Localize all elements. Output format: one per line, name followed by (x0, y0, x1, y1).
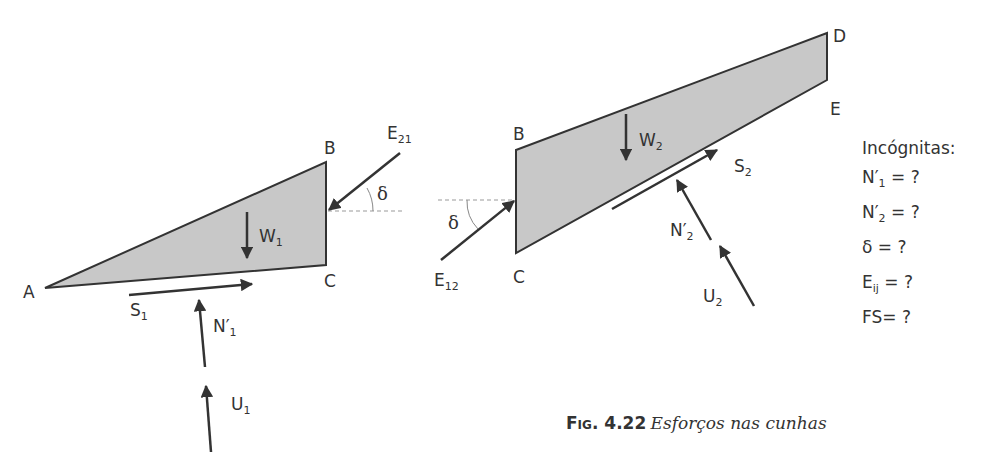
unknown-item: N′1 = ? (862, 163, 956, 198)
unknowns-title: Incógnitas: (862, 134, 956, 163)
vertex-label-c1: C (324, 271, 336, 291)
uplift-label-1: U1 (231, 394, 250, 417)
angle-arc-1 (367, 188, 373, 211)
vertex-label-d: D (833, 26, 846, 46)
vertex-label-a: A (23, 282, 35, 302)
vertex-label-b2: B (513, 124, 525, 144)
angle-arc-2 (467, 200, 478, 229)
normal-label-2: N′2 (670, 220, 694, 243)
shear-label-1: S1 (130, 300, 148, 323)
interface-force-arrow-21 (329, 153, 400, 210)
unknown-item: Eij = ? (862, 268, 956, 303)
unknown-item: FS= ? (862, 303, 956, 338)
vertex-label-e: E (830, 99, 841, 119)
wedge-1 (45, 162, 326, 288)
unknown-item: N′2 = ? (862, 198, 956, 233)
caption-text: Esforços nas cunhas (651, 413, 827, 433)
normal-label-1: N′1 (213, 316, 237, 339)
interface-label-21: E21 (387, 123, 412, 146)
uplift-arrow-2 (720, 246, 754, 306)
shear-arrow-1 (129, 284, 252, 295)
delta-label-1: δ (377, 183, 388, 204)
caption-label: Fig. 4.22 (566, 413, 646, 433)
unknown-item: δ = ? (862, 233, 956, 268)
interface-label-12: E12 (434, 270, 459, 293)
normal-arrow-1 (199, 300, 205, 367)
uplift-label-2: U2 (703, 286, 722, 309)
vertex-label-c2: C (513, 267, 525, 287)
vertex-label-b1: B (324, 138, 336, 158)
shear-label-2: S2 (734, 156, 752, 179)
wedge-forces-diagram: A B C W1 S1 N′1 U1 E21 δ B C D E W2 S2 N… (0, 0, 994, 466)
delta-label-2: δ (448, 212, 459, 233)
figure-caption: Fig. 4.22 Esforços nas cunhas (566, 413, 827, 434)
unknowns-list: Incógnitas: N′1 = ? N′2 = ? δ = ? Eij = … (862, 134, 956, 338)
uplift-arrow-1 (206, 386, 211, 452)
